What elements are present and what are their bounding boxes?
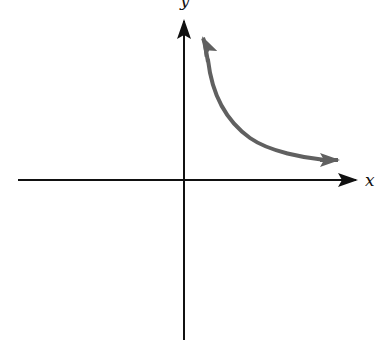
x-axis-label: x <box>365 170 375 190</box>
coordinate-plane-diagram: x y <box>0 0 379 345</box>
curve-arrow-up <box>203 38 208 62</box>
y-axis-label: y <box>179 0 190 10</box>
hyperbola-curve <box>208 60 325 160</box>
